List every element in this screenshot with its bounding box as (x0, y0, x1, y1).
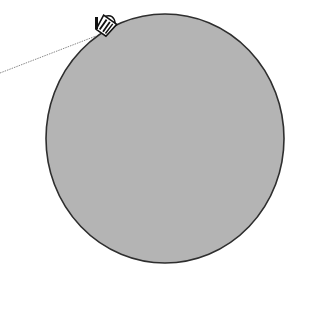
drawing-canvas[interactable] (0, 0, 309, 315)
circle-shape[interactable] (46, 14, 284, 263)
